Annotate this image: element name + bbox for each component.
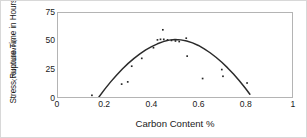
data-point [167, 39, 169, 41]
data-point [162, 29, 164, 31]
data-point [157, 39, 159, 41]
y-axis-subtitle: ( 750°C/138MPa) [11, 17, 17, 103]
y-tick-label: 75 [33, 8, 55, 17]
plot-area [57, 12, 293, 98]
data-point [175, 40, 177, 42]
data-point [141, 58, 143, 60]
y-tick-label: 25 [33, 65, 55, 74]
data-point [186, 55, 188, 57]
data-point [163, 38, 165, 40]
data-point [246, 82, 248, 84]
scatter-series [91, 29, 248, 96]
x-tick-label: 0.4 [134, 100, 168, 109]
x-axis-title: Carbon Content % [57, 118, 293, 129]
x-tick-label: 0.8 [229, 100, 263, 109]
data-point [178, 41, 180, 43]
x-axis-tick-labels: 00.20.40.60.81 [57, 100, 293, 114]
data-point [131, 65, 133, 67]
data-point [127, 81, 129, 83]
data-point [185, 37, 187, 39]
data-point [222, 75, 224, 77]
data-point [160, 38, 162, 40]
y-axis-title-group: Stress Rupture Time in Hours ( 750°C/138… [3, 1, 21, 111]
y-tick-label: 50 [33, 36, 55, 45]
x-tick-label: 0 [40, 100, 74, 109]
x-tick-label: 0.2 [87, 100, 121, 109]
chart-figure: Stress Rupture Time in Hours ( 750°C/138… [0, 0, 307, 138]
data-point [91, 94, 93, 96]
y-axis-tick-labels: 0255075 [31, 1, 55, 138]
data-point [221, 69, 223, 71]
data-point [121, 83, 123, 85]
x-tick-label: 0.6 [182, 100, 216, 109]
data-point [202, 78, 204, 80]
data-point [153, 47, 155, 49]
data-point [171, 40, 173, 42]
x-tick-label: 1 [276, 100, 307, 109]
plot-canvas [58, 13, 292, 97]
trend-curve [99, 40, 250, 97]
